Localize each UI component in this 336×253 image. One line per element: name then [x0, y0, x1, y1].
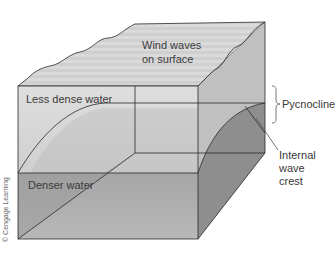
internal-wave-label-line2: wave	[279, 162, 305, 174]
surface-label-line2: on surface	[142, 53, 193, 65]
internal-wave-label-line3: crest	[279, 175, 303, 187]
lower-layer-label: Denser water	[28, 179, 93, 191]
upper-layer-label: Less dense water	[26, 93, 112, 105]
pycnocline-brace	[272, 86, 280, 123]
copyright-credit: © Cengage Learning	[2, 177, 9, 242]
block-diagram	[0, 0, 336, 253]
internal-wave-label-line1: Internal	[279, 149, 316, 161]
pycnocline-label: Pycnocline	[282, 98, 335, 110]
surface-label-line1: Wind waves	[142, 39, 201, 51]
